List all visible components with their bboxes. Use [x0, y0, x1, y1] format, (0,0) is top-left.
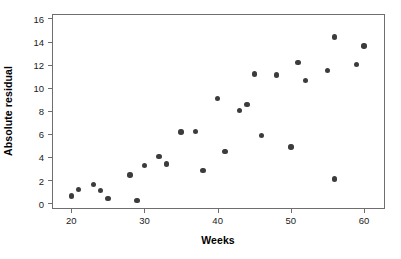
data-point [91, 182, 96, 187]
x-tick-30 [144, 208, 145, 213]
data-points-layer [53, 15, 384, 208]
data-point [244, 102, 249, 107]
y-axis-title: Absolute residual [2, 66, 14, 156]
x-axis-title: Weeks [201, 234, 235, 246]
x-tick-label: 60 [359, 215, 370, 226]
y-tick-label: 0 [39, 198, 44, 209]
data-point [259, 133, 264, 138]
x-tick-label: 40 [212, 215, 223, 226]
data-point [332, 34, 337, 39]
x-tick-20 [71, 208, 72, 213]
data-point [134, 198, 139, 203]
data-point [193, 129, 198, 134]
data-point [215, 96, 220, 101]
data-point [200, 168, 205, 173]
data-point [156, 154, 161, 159]
y-tick-label: 6 [39, 129, 44, 140]
data-point [303, 78, 308, 83]
data-point [222, 149, 227, 154]
data-point [252, 71, 257, 76]
y-tick-label: 10 [33, 83, 44, 94]
y-tick-label: 8 [39, 106, 44, 117]
x-tick-50 [291, 208, 292, 213]
data-point [164, 161, 169, 166]
data-point [142, 163, 147, 168]
data-point [105, 196, 110, 201]
data-point [76, 187, 81, 192]
data-point [178, 129, 183, 134]
y-tick-label: 14 [33, 37, 44, 48]
x-tick-label: 50 [286, 215, 297, 226]
scatter-plot-figure: Absolute residual 0246810121416 20304050… [0, 0, 401, 259]
data-point [354, 62, 359, 67]
x-tick-60 [364, 208, 365, 213]
x-tick-label: 30 [139, 215, 150, 226]
data-point [361, 43, 366, 48]
data-point [98, 188, 103, 193]
y-tick-label: 16 [33, 13, 44, 24]
data-point [332, 176, 337, 181]
plot-area: 0246810121416 2030405060 [52, 14, 385, 209]
data-point [69, 193, 74, 198]
y-tick-label: 2 [39, 175, 44, 186]
data-point [127, 172, 132, 177]
data-point [237, 108, 242, 113]
data-point [274, 72, 279, 77]
data-point [295, 60, 300, 65]
y-tick-label: 12 [33, 60, 44, 71]
data-point [325, 68, 330, 73]
x-tick-label: 20 [66, 215, 77, 226]
x-tick-40 [218, 208, 219, 213]
y-tick-label: 4 [39, 152, 44, 163]
data-point [288, 144, 293, 149]
